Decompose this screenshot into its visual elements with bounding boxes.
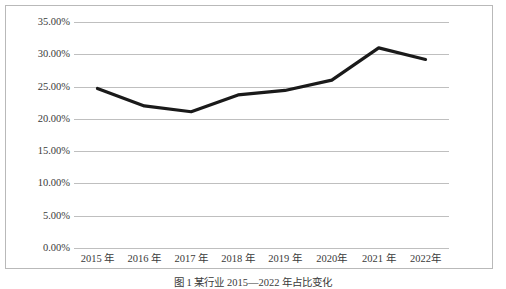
y-tick-label: 30.00%	[8, 48, 70, 59]
series-polyline	[97, 48, 425, 112]
x-tick-label: 2016 年	[128, 252, 162, 266]
y-tick-label: 0.00%	[8, 242, 70, 253]
x-tick-label: 2017 年	[174, 252, 208, 266]
y-tick-label: 25.00%	[8, 81, 70, 92]
figure-page: 35.00%30.00%25.00%20.00%15.00%10.00%5.00…	[0, 0, 506, 289]
y-tick-label: 15.00%	[8, 145, 70, 156]
x-tick-label: 2021 年	[362, 252, 396, 266]
x-axis-labels: 2015 年2016 年2017 年2018 年2019 年2020年2021 …	[74, 252, 449, 268]
x-tick-label: 2018 年	[221, 252, 255, 266]
y-axis-labels: 35.00%30.00%25.00%20.00%15.00%10.00%5.00…	[4, 22, 70, 248]
y-tick-label: 10.00%	[8, 177, 70, 188]
plot-area	[74, 22, 449, 248]
gridline	[74, 248, 449, 249]
x-tick-label: 2015 年	[81, 252, 115, 266]
x-tick-label: 2020年	[316, 252, 347, 266]
x-tick-label: 2022年	[410, 252, 441, 266]
y-tick-label: 5.00%	[8, 210, 70, 221]
figure-caption: 图 1 某行业 2015—2022 年占比变化	[0, 276, 506, 289]
line-series	[74, 22, 449, 248]
y-tick-label: 35.00%	[8, 16, 70, 27]
y-tick-label: 20.00%	[8, 113, 70, 124]
x-tick-label: 2019 年	[268, 252, 302, 266]
